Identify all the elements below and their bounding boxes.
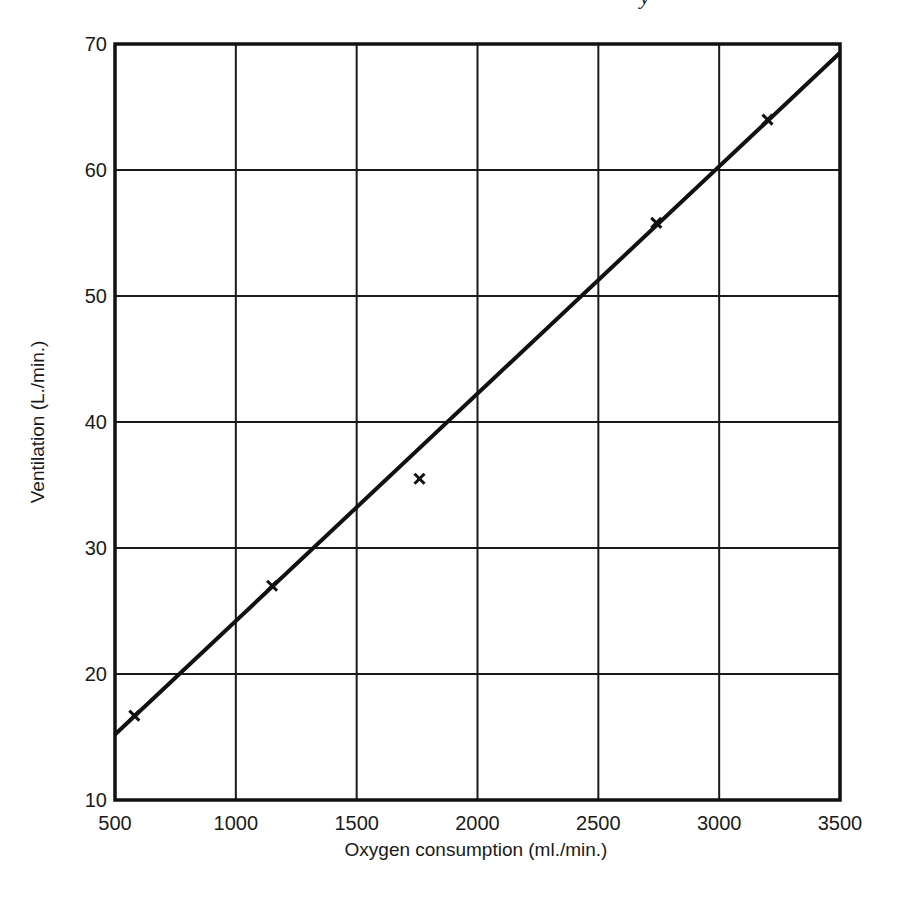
x-tick-label: 2500 — [576, 812, 621, 834]
x-axis-ticks: 500100015002000250030003500 — [98, 812, 862, 834]
ventilation-vs-oxygen-chart: 10203040506070 5001000150020002500300035… — [0, 0, 904, 907]
y-tick-label: 70 — [85, 33, 107, 55]
y-axis-title: Ventilation (L./min.) — [27, 341, 48, 504]
y-axis-ticks: 10203040506070 — [85, 33, 107, 811]
y-tick-label: 60 — [85, 159, 107, 181]
x-tick-label: 500 — [98, 812, 131, 834]
data-point-marker — [415, 474, 425, 484]
x-tick-label: 3000 — [697, 812, 742, 834]
x-tick-label: 1500 — [334, 812, 379, 834]
x-tick-label: 2000 — [455, 812, 500, 834]
y-tick-label: 20 — [85, 663, 107, 685]
x-tick-label: 1000 — [214, 812, 259, 834]
y-tick-label: 10 — [85, 789, 107, 811]
x-axis-title: Oxygen consumption (ml./min.) — [345, 839, 608, 860]
y-tick-label: 30 — [85, 537, 107, 559]
x-tick-label: 3500 — [818, 812, 863, 834]
y-tick-label: 50 — [85, 285, 107, 307]
y-tick-label: 40 — [85, 411, 107, 433]
